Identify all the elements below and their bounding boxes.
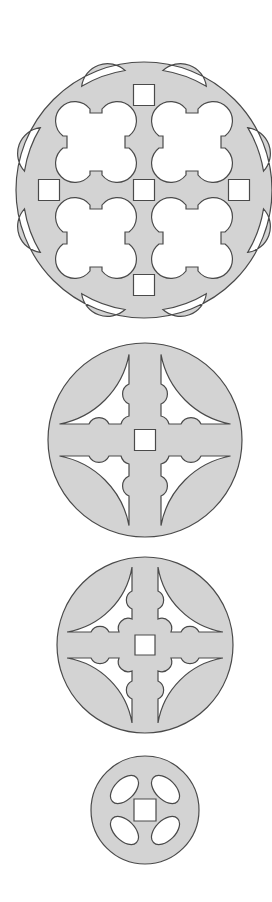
figure-canvas (0, 0, 272, 902)
disc-2-lobed-cross-plate (48, 343, 242, 537)
disc-3-notched-cross-plate (57, 557, 233, 733)
disc-4-oval-hole-plate (91, 756, 199, 864)
disc-1-quatrefoil-plate (16, 62, 272, 318)
